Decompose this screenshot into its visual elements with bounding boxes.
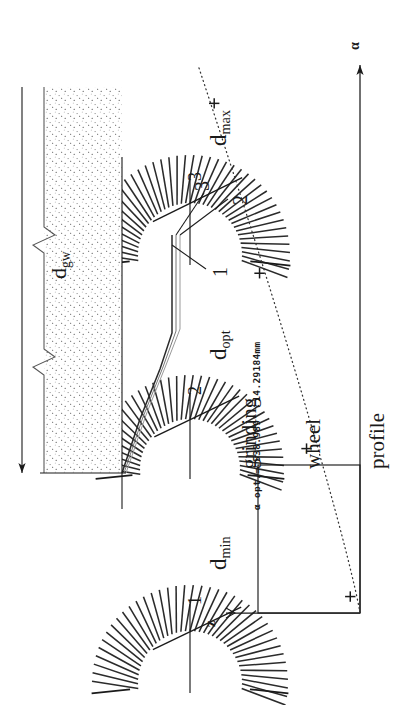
caption-line-3: profile (367, 398, 388, 469)
label-d-gw-base: d (46, 268, 71, 279)
callout-label-2: 2 (230, 195, 250, 205)
axis-label-z: z (203, 620, 218, 627)
label-d-gw-sub: gw (58, 251, 73, 268)
callout-label-3: 3 (192, 181, 212, 191)
label-d-min-base: d (206, 559, 231, 571)
label-index-1: 1 (186, 596, 204, 605)
axis-label-alpha: α (348, 42, 362, 50)
figure-canvas: dmin 1 dopt 2 dmax 3 α opt.= 538.989° 14… (0, 0, 408, 705)
label-d-min: dmin (184, 536, 255, 593)
label-d-max-base: d (206, 135, 231, 147)
caption-line-2: wheel (303, 398, 324, 469)
label-index-3: 3 (186, 172, 204, 181)
label-d-max: dmax (184, 110, 255, 169)
label-index-2: 2 (186, 386, 204, 395)
label-d-opt-base: d (206, 349, 231, 361)
label-d-min-sub: min (217, 536, 233, 558)
caption-line-1: grinding (239, 398, 260, 469)
caption-grinding-wheel-profile: grinding wheel profile (196, 398, 408, 469)
label-d-max-sub: max (217, 110, 233, 135)
label-d-opt-sub: opt (217, 330, 233, 348)
label-d-gw: dgw (26, 251, 94, 301)
label-d-opt: dopt (184, 330, 255, 383)
rotated-figure-group: dmin 1 dopt 2 dmax 3 α opt.= 538.989° 14… (0, 0, 408, 705)
callout-label-1: 1 (210, 267, 230, 277)
